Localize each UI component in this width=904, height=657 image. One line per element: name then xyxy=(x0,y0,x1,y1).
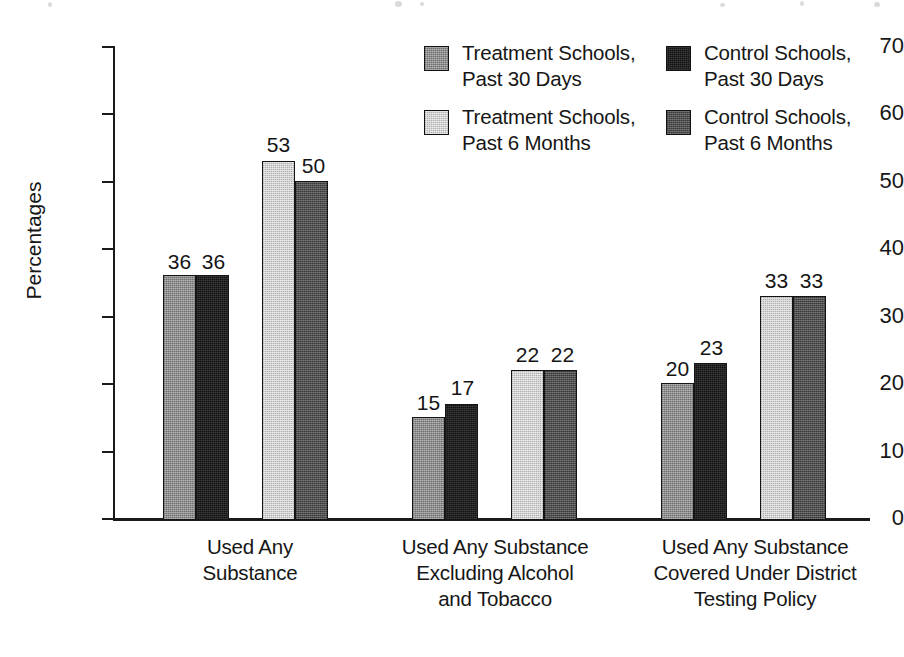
y-tick-label-70: 70 xyxy=(812,35,904,57)
bar-g2-control-6-months[interactable] xyxy=(544,370,577,520)
bar-label-g1-control-6-months: 50 xyxy=(294,155,333,176)
y-tick-40 xyxy=(102,248,113,250)
bar-label-g1-treatment-6-months: 53 xyxy=(259,134,298,155)
y-axis-title: Percentages xyxy=(23,171,44,311)
bar-chart-figure: Treatment Schools, Past 30 Days Treatmen… xyxy=(0,0,904,657)
bar-g3-treatment-6-months[interactable] xyxy=(760,296,793,520)
bar-g3-control-6-months[interactable] xyxy=(793,296,826,520)
bar-g1-treatment-30-days[interactable] xyxy=(163,275,196,520)
y-tick-label-50: 50 xyxy=(812,170,904,192)
bar-label-g2-treatment-6-months: 22 xyxy=(508,344,547,365)
y-tick-70 xyxy=(102,46,113,48)
bar-g2-control-30-days[interactable] xyxy=(445,404,478,520)
bar-g1-control-6-months[interactable] xyxy=(295,181,328,520)
bar-label-g2-control-6-months: 22 xyxy=(543,344,582,365)
bar-g3-control-30-days[interactable] xyxy=(694,363,727,520)
y-tick-60 xyxy=(102,113,113,115)
bar-g2-treatment-6-months[interactable] xyxy=(511,370,544,520)
bar-label-g3-treatment-30-days: 20 xyxy=(658,358,697,379)
category-label-excluding-alcohol-tobacco: Used Any Substance Excluding Alcohol and… xyxy=(375,534,615,612)
bar-label-g3-treatment-6-months: 33 xyxy=(757,270,796,291)
bar-label-g3-control-30-days: 23 xyxy=(692,337,731,358)
y-tick-20 xyxy=(102,383,113,385)
bar-g2-treatment-30-days[interactable] xyxy=(412,417,445,520)
y-tick-0 xyxy=(102,518,113,520)
y-axis-line xyxy=(113,46,115,520)
y-tick-10 xyxy=(102,451,113,453)
y-tick-50 xyxy=(102,181,113,183)
y-tick-label-60: 60 xyxy=(812,102,904,124)
plot-area: 70 60 50 40 30 20 10 0 Percentages 36 36… xyxy=(0,0,904,657)
bar-g1-treatment-6-months[interactable] xyxy=(262,161,295,520)
category-label-district-testing-policy: Used Any Substance Covered Under Distric… xyxy=(620,534,890,612)
bar-g3-treatment-30-days[interactable] xyxy=(661,383,694,520)
bar-g1-control-30-days[interactable] xyxy=(196,275,229,520)
bar-label-g1-control-30-days: 36 xyxy=(194,251,233,272)
bar-label-g2-control-30-days: 17 xyxy=(443,377,482,398)
y-tick-label-40: 40 xyxy=(812,237,904,259)
category-label-used-any-substance: Used Any Substance xyxy=(150,534,350,586)
y-tick-30 xyxy=(102,316,113,318)
bar-label-g3-control-6-months: 33 xyxy=(792,270,831,291)
